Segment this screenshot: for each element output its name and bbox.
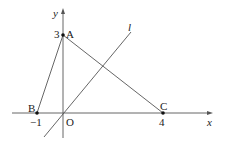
y-axis-arrow-icon — [61, 8, 65, 14]
line-l-label: l — [128, 21, 131, 33]
point-c-label: C — [160, 100, 167, 112]
line-l — [44, 32, 131, 137]
segment-ab — [37, 35, 63, 113]
segment-ac — [63, 35, 163, 113]
tick-label-3: 3 — [54, 28, 60, 40]
diagram-svg: y x O 3 A B −1 C 4 l — [0, 0, 225, 142]
coordinate-diagram: y x O 3 A B −1 C 4 l — [0, 0, 225, 142]
x-axis-arrow-icon — [207, 111, 213, 115]
origin-label: O — [66, 116, 74, 128]
x-axis-label: x — [206, 116, 212, 128]
y-axis-label: y — [52, 7, 58, 19]
point-b-label: B — [28, 102, 35, 114]
tick-label-minus-1: −1 — [30, 116, 42, 128]
point-b — [35, 111, 39, 115]
point-a — [61, 33, 65, 37]
point-a-label: A — [66, 28, 74, 40]
tick-label-4: 4 — [159, 116, 165, 128]
